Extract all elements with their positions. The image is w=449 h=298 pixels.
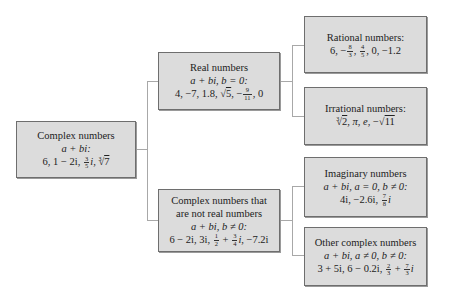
cube-root: 3√2 — [336, 116, 347, 127]
node-real-numbers: Real numbers a + bi, b = 0: 4, −7, 1.8, … — [158, 52, 280, 110]
node-condition: a + bi: — [61, 142, 90, 155]
fraction: 78 — [382, 193, 387, 207]
fraction: 34 — [232, 233, 237, 247]
node-imaginary-numbers: Imaginary numbers a + bi, a = 0, b ≠ 0: … — [304, 157, 427, 217]
node-condition: a + bi, b ≠ 0: — [191, 220, 247, 233]
node-examples: 6, 1 − 2i, 35i, 3√7 — [43, 155, 110, 170]
node-irrational-numbers: Irrational numbers: 3√2, π, e, −√11 — [304, 87, 427, 145]
node-title: Irrational numbers: — [325, 102, 406, 115]
connector-to-irrational — [292, 116, 304, 117]
connector-nonreal-vertical — [292, 186, 293, 256]
node-title: Rational numbers: — [327, 31, 404, 44]
node-nonreal-complex-numbers: Complex numbers that are not real number… — [158, 189, 280, 252]
node-examples: 6, −83, 45, 0, −1.2 — [330, 44, 401, 59]
node-title: Imaginary numbers — [325, 167, 407, 180]
connector-to-other — [292, 255, 304, 256]
node-title: Other complex numbers — [315, 236, 416, 249]
node-title: Real numbers — [190, 61, 248, 74]
node-examples: 3 + 5i, 6 − 0.2i, 23 + 73i — [317, 262, 413, 277]
node-title-line2: are not real numbers — [176, 207, 262, 220]
node-rational-numbers: Rational numbers: 6, −83, 45, 0, −1.2 — [304, 16, 427, 73]
fraction: 35 — [84, 156, 89, 170]
connector-nonreal-stub — [280, 220, 292, 221]
fraction: 83 — [347, 44, 352, 58]
node-condition: a + bi, a ≠ 0, b ≠ 0: — [324, 249, 407, 262]
connector-to-nonreal — [147, 220, 158, 221]
node-condition: a + bi, b = 0: — [190, 74, 247, 87]
connector-to-rational — [292, 45, 304, 46]
node-title: Complex numbers — [37, 129, 114, 142]
connector-level1-vertical — [147, 81, 148, 221]
node-title-line1: Complex numbers that — [171, 194, 267, 207]
connector-to-imaginary — [292, 186, 304, 187]
fraction: 911 — [243, 87, 251, 101]
node-condition: a + bi, a = 0, b ≠ 0: — [323, 180, 407, 193]
connector-real-vertical — [292, 45, 293, 117]
connector-to-real — [147, 81, 158, 82]
fraction: 23 — [386, 263, 391, 277]
cube-root: 3√7 — [98, 156, 109, 167]
node-examples: 4i, −2.6i, 78i — [340, 193, 391, 208]
fraction: 12 — [214, 233, 219, 247]
node-examples: 6 − 2i, 3i, 12 + 34i, −7.2i — [169, 233, 268, 248]
node-examples: 3√2, π, e, −√11 — [336, 115, 395, 130]
node-complex-numbers: Complex numbers a + bi: 6, 1 − 2i, 35i, … — [16, 121, 136, 178]
node-other-complex-numbers: Other complex numbers a + bi, a ≠ 0, b ≠… — [304, 227, 427, 286]
fraction: 73 — [404, 263, 409, 277]
connector-complex-stub — [136, 149, 147, 150]
node-examples: 4, −7, 1.8, √5, −911, 0 — [175, 87, 263, 102]
fraction: 45 — [360, 44, 365, 58]
connector-real-stub — [280, 81, 292, 82]
